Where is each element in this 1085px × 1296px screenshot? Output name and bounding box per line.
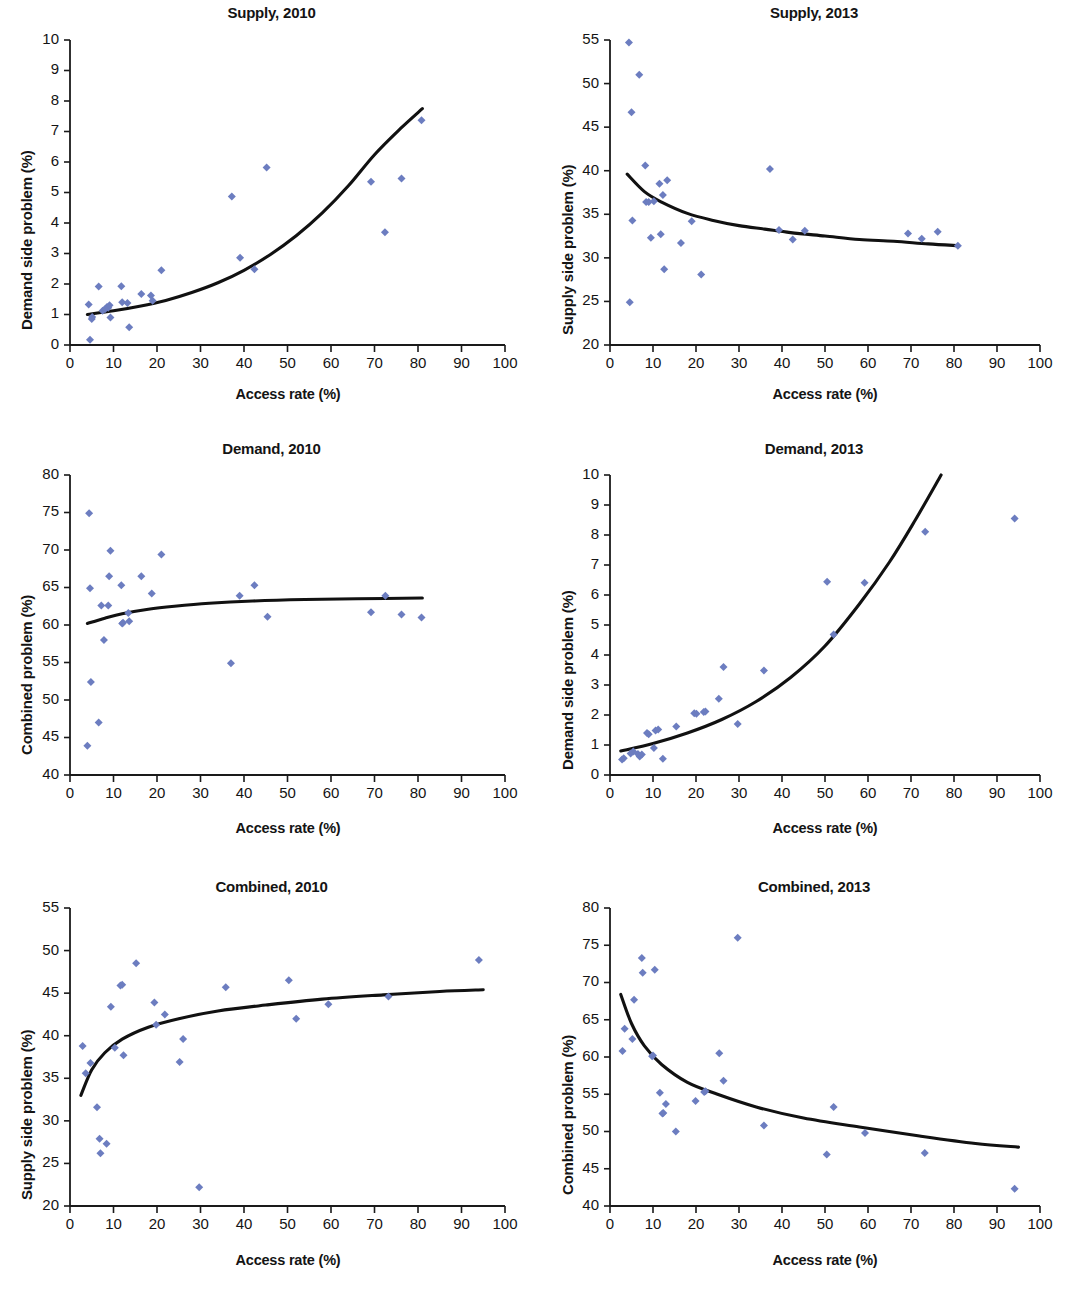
x-tick-label: 50 <box>279 784 296 801</box>
y-tick-label: 35 <box>42 1068 59 1085</box>
plot-area: 0123456789100102030405060708090100 <box>0 0 543 430</box>
y-tick-label: 3 <box>51 243 59 260</box>
x-tick-label: 50 <box>279 1215 296 1232</box>
scatter-point <box>715 1049 723 1057</box>
y-tick-label: 45 <box>42 983 59 1000</box>
y-tick-label: 2 <box>591 705 599 722</box>
y-tick-label: 10 <box>582 465 599 482</box>
scatter-point <box>688 217 696 225</box>
y-tick-label: 50 <box>42 941 59 958</box>
x-tick-label: 80 <box>946 784 963 801</box>
scatter-point <box>677 239 685 247</box>
fit-curve <box>81 990 483 1096</box>
scatter-point <box>639 969 647 977</box>
x-tick-label: 80 <box>946 354 963 371</box>
x-tick-label: 60 <box>323 784 340 801</box>
x-tick-label: 20 <box>688 354 705 371</box>
y-tick-label: 70 <box>582 972 599 989</box>
scatter-point <box>789 236 797 244</box>
x-tick-label: 20 <box>688 784 705 801</box>
y-tick-label: 50 <box>42 690 59 707</box>
x-tick-label: 40 <box>236 354 253 371</box>
y-tick-label: 40 <box>42 765 59 782</box>
y-tick-label: 80 <box>582 898 599 915</box>
plot-area: 20253035404550550102030405060708090100 <box>0 870 543 1296</box>
x-tick-label: 20 <box>149 1215 166 1232</box>
scatter-point <box>656 1089 664 1097</box>
x-tick-label: 100 <box>492 354 517 371</box>
y-tick-label: 1 <box>591 735 599 752</box>
y-tick-label: 9 <box>51 60 59 77</box>
scatter-point <box>734 934 742 942</box>
y-tick-label: 65 <box>42 577 59 594</box>
x-tick-label: 70 <box>366 1215 383 1232</box>
scatter-point <box>657 230 665 238</box>
y-tick-label: 30 <box>582 248 599 265</box>
scatter-point <box>626 298 634 306</box>
x-tick-label: 0 <box>606 784 614 801</box>
fit-curve <box>621 475 941 751</box>
scatter-point <box>79 1042 87 1050</box>
scatter-point <box>417 116 425 124</box>
y-tick-label: 50 <box>582 1121 599 1138</box>
x-tick-label: 50 <box>817 1215 834 1232</box>
scatter-point <box>150 999 158 1007</box>
scatter-point <box>720 663 728 671</box>
x-tick-label: 60 <box>323 354 340 371</box>
scatter-point <box>918 235 926 243</box>
scatter-point <box>227 659 235 667</box>
scatter-point <box>87 678 95 686</box>
x-tick-label: 0 <box>606 354 614 371</box>
y-tick-label: 4 <box>591 645 599 662</box>
scatter-point <box>954 242 962 250</box>
scatter-point <box>263 613 271 621</box>
scatter-point <box>1011 515 1019 523</box>
scatter-point <box>934 228 942 236</box>
x-tick-label: 10 <box>105 784 122 801</box>
scatter-point <box>132 959 140 967</box>
x-tick-label: 70 <box>903 1215 920 1232</box>
x-tick-label: 100 <box>492 784 517 801</box>
plot-area: 20253035404550550102030405060708090100 <box>543 0 1085 430</box>
scatter-point <box>628 1035 636 1043</box>
x-tick-label: 30 <box>731 784 748 801</box>
scatter-point <box>475 956 483 964</box>
chart-panel-demand-2010: Demand, 2010Combined problem (%)Access r… <box>0 430 543 870</box>
x-tick-label: 70 <box>903 784 920 801</box>
scatter-point <box>86 336 94 344</box>
figure-panel-grid: Supply, 2010Demand side problem (%)Acces… <box>0 0 1085 1296</box>
scatter-point <box>760 1122 768 1130</box>
x-tick-label: 10 <box>645 354 662 371</box>
scatter-point <box>630 996 638 1004</box>
scatter-point <box>228 192 236 200</box>
scatter-point <box>120 1051 128 1059</box>
scatter-point <box>662 1100 670 1108</box>
y-tick-label: 3 <box>591 675 599 692</box>
scatter-point <box>692 1097 700 1105</box>
scatter-point <box>628 108 636 116</box>
x-tick-label: 10 <box>105 1215 122 1232</box>
scatter-point <box>417 614 425 622</box>
x-tick-label: 70 <box>366 784 383 801</box>
x-tick-label: 0 <box>66 354 74 371</box>
chart-panel-demand-2013: Demand, 2013Demand side problem (%)Acces… <box>543 430 1085 870</box>
y-tick-label: 55 <box>582 30 599 47</box>
y-tick-label: 50 <box>582 74 599 91</box>
scatter-point <box>176 1058 184 1066</box>
scatter-point <box>105 572 113 580</box>
y-tick-label: 35 <box>582 204 599 221</box>
scatter-point <box>823 578 831 586</box>
y-tick-label: 9 <box>591 495 599 512</box>
scatter-point <box>861 579 869 587</box>
x-tick-label: 90 <box>453 784 470 801</box>
scatter-point <box>655 180 663 188</box>
y-tick-label: 7 <box>51 121 59 138</box>
scatter-point <box>672 722 680 730</box>
y-tick-label: 60 <box>42 615 59 632</box>
x-tick-label: 80 <box>410 1215 427 1232</box>
x-tick-label: 70 <box>903 354 920 371</box>
scatter-point <box>157 551 165 559</box>
x-tick-label: 90 <box>453 1215 470 1232</box>
scatter-point <box>663 176 671 184</box>
y-tick-label: 40 <box>582 1196 599 1213</box>
